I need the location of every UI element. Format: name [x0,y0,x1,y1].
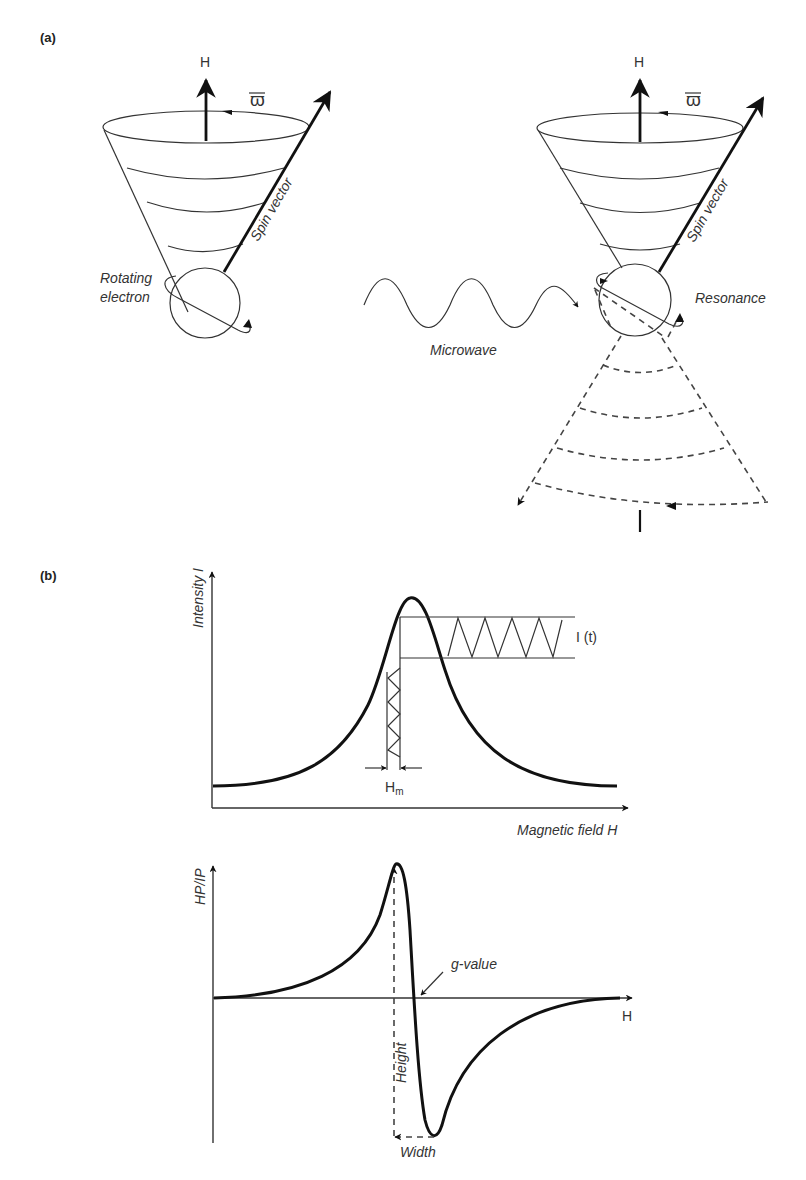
rotation-arrow-icon [243,319,252,328]
esr-figure: (a) H ϖ Spin vector Rotating electron [0,0,806,1180]
flipped-ring [580,408,702,418]
x-axis-label: Magnetic field H [517,822,618,838]
resonance-label: Resonance [695,290,766,306]
precession-label: ϖ [250,89,265,110]
rotation-arrow-icon [675,313,684,322]
electron-label-line2: electron [100,289,150,305]
panel-b-label: (b) [40,568,57,583]
electron-sphere [170,268,240,338]
electron-label-line1: Rotating [100,270,152,286]
height-label: Height [393,1041,409,1083]
cone-ring [600,244,680,250]
panel-b: (b) Intensity I Magnetic field H I (t) H… [40,568,632,1160]
panel-a-label: (a) [40,30,56,45]
g-value-label: g-value [451,956,497,972]
field-label: H [200,54,210,70]
derivative-curve [214,864,620,1136]
flipped-ring [557,448,724,460]
g-value-arrow-icon [421,972,443,995]
left-precession-cone: H ϖ Spin vector Rotating electron [100,54,330,338]
field-label: H [634,54,644,70]
y-axis-label: HP/IP [192,868,208,905]
flipped-cone-edge [662,338,768,505]
modulation-label: I (t) [576,629,597,645]
derivative-chart: HP/IP H Height Width g-value [192,864,632,1160]
spin-vector-label: Spin vector [683,175,733,245]
incoming-arrow-icon [600,278,608,284]
width-label: Width [400,1144,436,1160]
cone-ring [560,168,719,179]
y-axis-label: Intensity I [190,568,206,628]
cone-ring [127,168,284,179]
flipped-ring [603,365,677,373]
cone-ring [147,202,266,212]
microwave-label: Microwave [430,342,497,358]
absorption-curve [213,598,617,786]
field-modulation-signal [388,668,400,757]
hm-label: Hm [385,779,403,797]
absorption-chart: Intensity I Magnetic field H I (t) Hm [190,568,628,838]
flipped-dash [595,290,612,330]
flipped-spin-cone [518,288,768,532]
microwave-wave [364,279,578,328]
precession-label: ϖ [686,89,701,110]
flipped-ring [535,483,768,505]
cone-left-edge [538,130,622,268]
cone-ring [168,244,243,252]
x-axis-label: H [622,1008,632,1024]
modulation-signal [448,618,562,657]
panel-a: (a) H ϖ Spin vector Rotating electron [40,30,768,532]
electron-orbit [597,273,683,326]
spin-vector-label: Spin vector [247,174,297,244]
cone-ring [580,203,700,213]
right-precession-cone: H ϖ Spin vector Resonance Microwave [364,54,768,532]
flipped-spin-vector-icon [518,336,621,505]
spin-vector-arrow-icon [659,98,763,272]
